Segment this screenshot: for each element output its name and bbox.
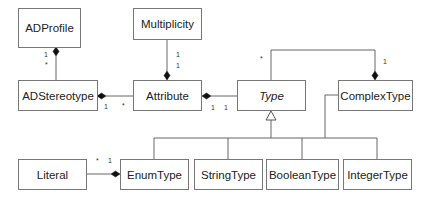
class-adstereotype: ADStereotype [18, 80, 98, 111]
composition-diamond-icon [53, 47, 59, 56]
class-stringtype: StringType [194, 159, 263, 190]
class-enumtype: EnumType [120, 159, 189, 190]
uml-class-diagram: ADProfile Multiplicity ADStereotype Attr… [0, 0, 426, 202]
multiplicity-label: 1 [383, 58, 387, 65]
class-complextype: ComplexType [338, 80, 413, 111]
multiplicity-label: 1 [108, 157, 112, 164]
composition-diamond-icon [111, 171, 120, 177]
composition-diamond-icon [202, 93, 211, 99]
multiplicity-label: 1 [224, 104, 228, 111]
multiplicity-label: 1 [211, 104, 215, 111]
generalization-triangle-icon [266, 111, 276, 120]
multiplicity-label: 1 [176, 51, 180, 58]
multiplicity-label: * [45, 61, 48, 68]
multiplicity-label: * [122, 102, 125, 109]
composition-diamond-icon [372, 71, 378, 80]
class-adprofile: ADProfile [18, 8, 81, 48]
class-attribute: Attribute [133, 80, 202, 111]
multiplicity-label: 1 [44, 51, 48, 58]
class-literal: Literal [18, 159, 87, 190]
multiplicity-label: * [96, 157, 99, 164]
multiplicity-label: 1 [176, 62, 180, 69]
multiplicity-label: 1 [104, 103, 108, 110]
class-booleantype: BooleanType [266, 159, 339, 190]
class-multiplicity: Multiplicity [133, 8, 202, 40]
class-type: Type [237, 80, 306, 111]
multiplicity-label: * [260, 55, 263, 62]
class-integertype: IntegerType [343, 159, 412, 190]
composition-diamond-icon [164, 71, 170, 80]
composition-diamond-icon [97, 93, 106, 99]
